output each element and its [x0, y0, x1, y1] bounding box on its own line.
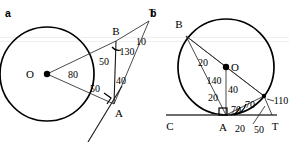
panel-a: a O B A T 80 50 130 10 50 40	[0, 0, 160, 142]
segment-O-to-P	[226, 67, 264, 96]
angle-label-A-50: 50	[90, 83, 100, 94]
angle-label-A-40: 40	[116, 75, 126, 86]
point-O-dot-b	[223, 64, 229, 70]
label-point-A: A	[115, 107, 123, 119]
segment-BP-b	[186, 36, 264, 96]
pointer-tick-50	[253, 106, 265, 124]
label-point-O: O	[26, 68, 34, 80]
label-point-A-b: A	[219, 121, 227, 133]
angle-arc-A-70b	[234, 104, 246, 115]
angle-label-B-20: 20	[198, 57, 208, 68]
label-point-T: T	[149, 6, 156, 18]
point-O-dot	[44, 71, 50, 77]
point-P-dot	[262, 94, 266, 98]
angle-label-A-70: 70	[231, 104, 241, 115]
label-point-C-b: C	[166, 120, 173, 132]
geometry-figure: a O B A T 80 50 130 10 50 40	[0, 0, 289, 142]
angle-label-lower-20: 20	[208, 92, 218, 103]
segment-BA-b	[186, 36, 226, 115]
angle-label-B-50: 50	[99, 56, 109, 67]
angle-label-A-base-20: 20	[235, 123, 245, 134]
segment-OA	[47, 74, 114, 104]
panel-label-a: a	[5, 7, 11, 19]
angle-label-B-130: 130	[120, 46, 135, 57]
label-point-O-b: O	[231, 61, 239, 73]
angle-label-A-70b: 70	[245, 99, 255, 110]
segment-BA	[114, 41, 116, 104]
angle-label-O-40: 40	[228, 84, 238, 95]
angle-label-T-base-50: 50	[254, 124, 264, 135]
angle-label-O-140: 140	[207, 75, 222, 86]
segment-PT-b	[264, 96, 272, 115]
segment-AP-b	[226, 96, 264, 115]
angle-arc-A-70	[231, 107, 240, 115]
angle-label-O-80: 80	[68, 69, 78, 80]
label-point-T-b: T	[272, 120, 279, 132]
label-point-B-b: B	[175, 18, 182, 30]
right-angle-marker-A-b	[219, 108, 227, 115]
circle-b	[178, 19, 274, 115]
angle-label-110: 110	[274, 95, 289, 106]
angle-label-T-10: 10	[136, 36, 146, 47]
label-point-B: B	[112, 25, 119, 37]
segment-BO-b	[186, 36, 226, 67]
leader-line-110	[267, 99, 274, 101]
